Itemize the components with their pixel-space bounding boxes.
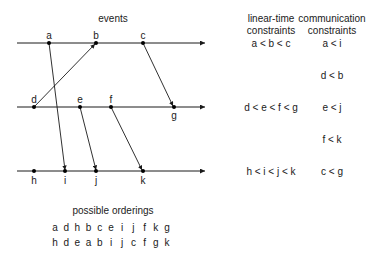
event-label-c: c <box>141 31 146 41</box>
event-e-dot <box>78 105 82 109</box>
event-f-dot <box>109 105 113 109</box>
event-label-i: i <box>64 176 66 186</box>
event-b-dot <box>94 41 98 45</box>
ordering-event: g <box>152 237 160 248</box>
orderings-title: possible orderings <box>72 205 153 216</box>
ordering-event: j <box>129 222 137 233</box>
comm-constraint-1: a < i <box>322 38 341 49</box>
event-label-g: g <box>171 111 177 121</box>
ordering-event: a <box>85 237 93 248</box>
linear-constraint-3: h < i < j < k <box>246 166 295 177</box>
comm-constraint-2: d < b <box>321 70 344 81</box>
ordering-event: k <box>152 222 160 233</box>
comm-constraint-5: c < g <box>321 166 343 177</box>
event-label-b: b <box>93 31 99 41</box>
message-c-to-g <box>143 43 173 106</box>
ordering-event: e <box>107 222 115 233</box>
ordering-event: h <box>73 222 81 233</box>
event-k-dot <box>141 169 145 173</box>
ordering-event: i <box>107 237 115 248</box>
event-g-dot <box>172 105 176 109</box>
ordering-event: g <box>163 222 171 233</box>
ordering-event: h <box>51 237 59 248</box>
ordering-event: d <box>62 222 70 233</box>
ordering-event: f <box>141 222 149 233</box>
linear-constraint-2: d < e < f < g <box>244 102 298 113</box>
event-label-h: h <box>31 176 37 186</box>
events-title: events <box>98 13 127 24</box>
ordering-event: i <box>118 222 126 233</box>
event-label-k: k <box>141 176 146 186</box>
ordering-event: b <box>96 237 104 248</box>
message-f-to-k <box>111 107 142 170</box>
event-c-dot <box>141 41 145 45</box>
event-j-dot <box>94 169 98 173</box>
ordering-event: k <box>163 237 171 248</box>
event-h-dot <box>32 169 36 173</box>
event-a-dot <box>47 41 51 45</box>
message-d-to-b <box>34 44 95 107</box>
linear-time-title-line1: linear-time <box>248 13 295 24</box>
ordering-event: b <box>85 222 93 233</box>
ordering-event: j <box>118 237 126 248</box>
message-e-to-j <box>80 107 96 170</box>
linear-constraint-1: a < b < c <box>252 38 291 49</box>
ordering-event: a <box>51 222 59 233</box>
comm-constraint-4: f < k <box>322 134 341 145</box>
ordering-event: d <box>62 237 70 248</box>
event-label-f: f <box>110 95 113 105</box>
event-d-dot <box>32 105 36 109</box>
ordering-event: c <box>129 237 137 248</box>
event-label-a: a <box>46 31 52 41</box>
event-label-j: j <box>95 176 97 186</box>
comm-constraint-3: e < j <box>322 102 341 113</box>
communication-title-line2: constraints <box>308 25 356 36</box>
event-label-d: d <box>31 95 37 105</box>
event-i-dot <box>63 169 67 173</box>
ordering-event: c <box>96 222 104 233</box>
ordering-event: f <box>141 237 149 248</box>
ordering-event: e <box>73 237 81 248</box>
communication-title-line1: communication <box>298 13 365 24</box>
linear-time-title-line2: constraints <box>247 25 295 36</box>
event-label-e: e <box>77 95 83 105</box>
